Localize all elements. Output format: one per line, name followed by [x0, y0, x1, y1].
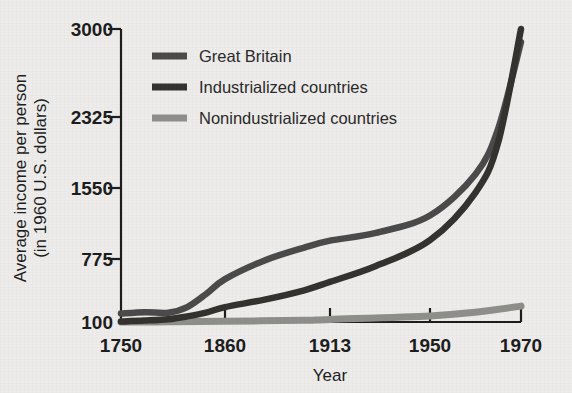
y-axis-title-line1: Average income per person: [11, 74, 30, 283]
legend-label: Nonindustrialized countries: [199, 109, 397, 127]
y-tick-label: 2325: [71, 107, 114, 128]
x-tick-label: 1913: [309, 335, 351, 356]
y-tick-label: 3000: [71, 19, 113, 40]
x-axis-tick-labels: 1750 1860 1913 1950 1970: [100, 335, 542, 356]
y-tick-label: 1550: [71, 178, 113, 199]
chart-figure: 3000 2325 1550 775 100 1750 1860: [0, 0, 572, 393]
series-line-industrialized-countries: [121, 29, 521, 322]
series-lines: [121, 29, 521, 322]
legend-label: Industrialized countries: [199, 78, 368, 96]
x-tick-label: 1750: [100, 335, 142, 356]
y-axis-tick-labels: 3000 2325 1550 775 100: [71, 19, 114, 333]
y-axis-title: Average income per person (in 1960 U.S. …: [11, 74, 50, 283]
legend-label: Great Britain: [199, 47, 292, 65]
x-axis-title: Year: [313, 366, 348, 385]
x-tick-label: 1950: [409, 335, 451, 356]
x-tick-label: 1860: [204, 335, 246, 356]
y-axis-tickmarks: [108, 29, 121, 259]
chart-svg: 3000 2325 1550 775 100 1750 1860: [0, 0, 572, 393]
y-tick-label: 100: [81, 312, 113, 333]
plot-frame: [121, 29, 521, 322]
y-axis-title-line2: (in 1960 U.S. dollars): [31, 98, 50, 258]
chart-legend: Great Britain Industrialized countries N…: [152, 47, 397, 127]
x-tick-label: 1970: [500, 335, 542, 356]
